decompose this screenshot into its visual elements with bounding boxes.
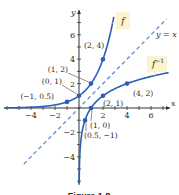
y-tick-label: −4 <box>63 153 75 162</box>
x-axis-label: x <box>171 99 176 108</box>
x-axis-arrow <box>166 106 170 110</box>
y-tick-label: 4 <box>70 55 75 64</box>
data-point <box>101 94 106 99</box>
y-axis-label: y <box>70 8 76 17</box>
figure-caption: Figure 1.8 <box>68 191 111 195</box>
x-tick-label: −2 <box>49 111 61 120</box>
x-tick-label: 6 <box>148 111 153 120</box>
x-tick-label: −4 <box>25 111 37 120</box>
function-inverse-graph: −4−2246−4−2246xy(2, 4)(1, 2)(0, 1)(−1, 0… <box>0 0 179 195</box>
point-label: (0.5, −1) <box>84 131 118 140</box>
y-tick-label: 2 <box>70 80 75 89</box>
point-label: (1, 0) <box>90 121 110 130</box>
point-label: (4, 2) <box>133 89 153 98</box>
point-label: (1, 2) <box>48 65 68 74</box>
data-point <box>125 81 130 86</box>
label-identity-line: y = x <box>155 30 177 39</box>
point-label: (0, 1) <box>42 77 62 86</box>
data-point <box>89 81 94 86</box>
data-point <box>101 57 106 62</box>
y-tick-label: −2 <box>63 128 75 137</box>
leader-line <box>91 109 92 121</box>
data-point <box>89 106 94 111</box>
y-tick-label: 6 <box>70 31 75 40</box>
point-label: (−1, 0.5) <box>20 92 54 101</box>
y-axis-arrow <box>77 10 81 14</box>
data-point <box>83 118 88 123</box>
x-tick-label: 4 <box>124 111 129 120</box>
point-label: (2, 4) <box>84 41 104 50</box>
point-label: (2, 1) <box>103 99 123 108</box>
x-tick-label: 2 <box>100 111 105 120</box>
data-point <box>65 100 70 105</box>
